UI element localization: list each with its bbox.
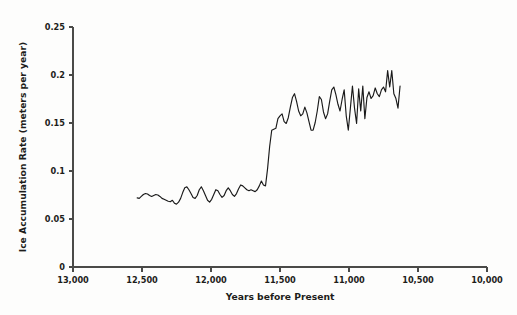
y-tick-label: 0	[59, 262, 65, 272]
y-tick-label: 0.1	[50, 166, 65, 176]
y-axis-title: Ice Accumulation Rate (meters per year)	[17, 42, 28, 253]
x-tick-label: 13,000	[57, 275, 89, 285]
data-series-line	[137, 71, 400, 204]
x-tick-label: 10,500	[402, 275, 434, 285]
x-tick-label: 10,000	[471, 275, 503, 285]
y-tick-label: 0.05	[45, 214, 66, 224]
y-tick-label: 0.25	[45, 22, 66, 32]
y-axis-ticks: 00.050.10.150.20.25	[45, 22, 73, 272]
x-axis-title: Years before Present	[225, 291, 335, 302]
ice-accumulation-chart-figure: 00.050.10.150.20.25 13,00012,50012,00011…	[0, 0, 517, 315]
y-tick-label: 0.2	[50, 70, 65, 80]
x-axis-ticks: 13,00012,50012,00011,50011,00010,50010,0…	[57, 267, 503, 285]
y-tick-label: 0.15	[45, 118, 66, 128]
x-tick-label: 12,000	[195, 275, 227, 285]
x-tick-label: 11,500	[264, 275, 296, 285]
chart-canvas: 00.050.10.150.20.25 13,00012,50012,00011…	[0, 0, 517, 315]
x-tick-label: 12,500	[126, 275, 158, 285]
x-tick-label: 11,000	[333, 275, 365, 285]
